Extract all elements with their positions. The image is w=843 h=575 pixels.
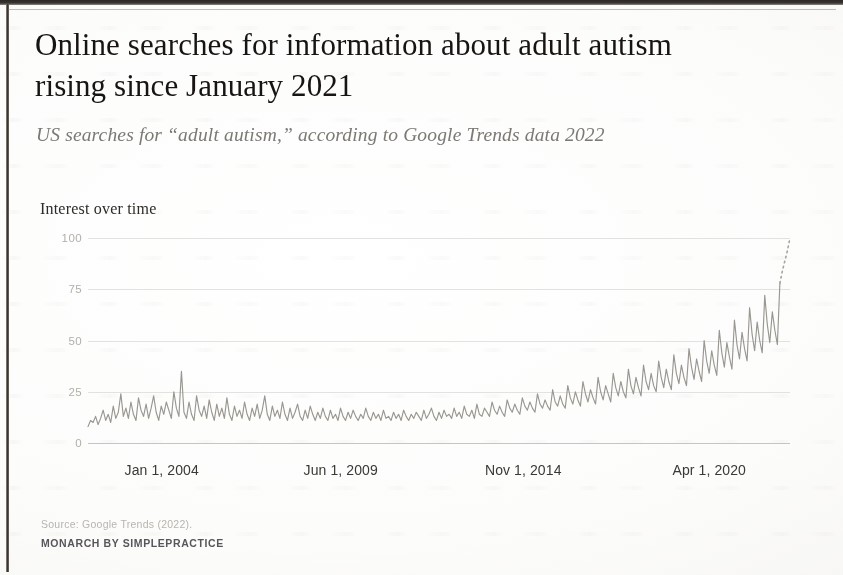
chart-caption: Interest over time: [40, 200, 156, 218]
page-content: Online searches for information about ad…: [0, 0, 843, 575]
page-title-line-1: Online searches for information about ad…: [35, 27, 672, 62]
y-axis-labels: 1007550250: [40, 238, 88, 453]
y-axis-tick-label: 25: [68, 386, 82, 398]
x-axis-tick-label: Apr 1, 2020: [673, 462, 747, 478]
x-axis-line: [88, 443, 790, 444]
scan-edge-top: [0, 0, 843, 5]
page-subtitle: US searches for “adult autism,” accordin…: [36, 122, 776, 148]
scan-edge-top-hairline: [8, 9, 836, 10]
series-line-dotted: [780, 238, 790, 283]
page-title: Online searches for information about ad…: [35, 24, 735, 106]
x-axis-tick-label: Nov 1, 2014: [485, 462, 562, 478]
y-axis-tick-label: 75: [68, 283, 82, 295]
line-chart: 1007550250: [40, 238, 800, 453]
source-note: Source: Google Trends (2022).: [41, 518, 192, 530]
series-line-solid: [88, 283, 780, 427]
chart-series-area: [88, 238, 790, 443]
x-axis-tick-label: Jun 1, 2009: [304, 462, 378, 478]
page-title-line-2: rising since January 2021: [35, 68, 353, 103]
y-axis-tick-label: 0: [75, 437, 82, 449]
brand-note: MONARCH BY SIMPLEPRACTICE: [41, 537, 224, 549]
y-axis-tick-label: 100: [62, 232, 82, 244]
x-axis-tick-label: Jan 1, 2004: [125, 462, 199, 478]
y-axis-tick-label: 50: [68, 335, 82, 347]
scanned-page: Online searches for information about ad…: [0, 0, 843, 575]
scan-edge-left: [6, 4, 9, 572]
